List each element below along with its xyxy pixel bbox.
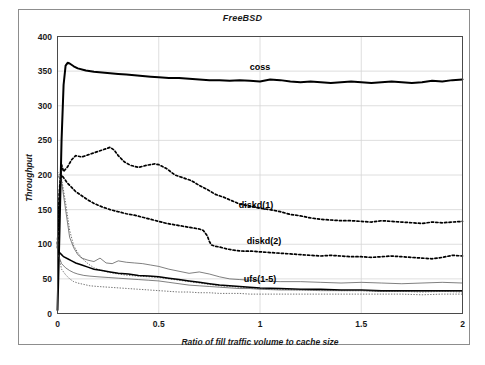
y-tick-label: 150 — [38, 205, 52, 215]
series-label-ufs1-5: ufs(1-5) — [244, 274, 277, 284]
x-tick-label: 1.5 — [355, 319, 367, 329]
series-label-diskd1: diskd(1) — [239, 200, 274, 210]
y-tick-label: 100 — [38, 239, 52, 249]
x-tick-label: 0.5 — [153, 319, 165, 329]
y-tick-label: 250 — [38, 135, 52, 145]
y-tick-label: 300 — [38, 101, 52, 111]
series-label-coss: coss — [250, 62, 271, 72]
x-tick-label: 1 — [258, 319, 263, 329]
y-axis-ticks: 050100150200250300350400 — [38, 32, 52, 319]
x-axis-title: Ratio of fill traffic volume to cache si… — [181, 337, 338, 347]
gridlines — [58, 37, 463, 314]
y-axis-title: Throughput — [24, 153, 34, 202]
y-tick-label: 200 — [38, 170, 52, 180]
y-tick-label: 0 — [47, 309, 52, 319]
chart-plot: 050100150200250300350400 00.511.52 cossd… — [0, 0, 485, 365]
x-axis-ticks: 00.511.52 — [55, 319, 465, 329]
y-tick-label: 400 — [38, 32, 52, 42]
y-tick-label: 350 — [38, 66, 52, 76]
x-tick-label: 0 — [55, 319, 60, 329]
chart-figure: FreeBSD 050100150200250300350400 00.511.… — [0, 0, 485, 365]
x-tick-label: 2 — [460, 319, 465, 329]
y-tick-label: 50 — [43, 274, 53, 284]
series-label-diskd2: diskd(2) — [247, 236, 282, 246]
